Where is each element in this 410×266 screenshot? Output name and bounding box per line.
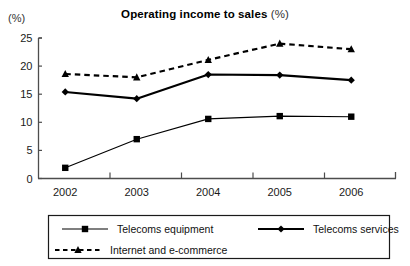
data-point-marker (277, 113, 283, 119)
series-1 (62, 113, 354, 171)
legend-item-label: Internet and e-commerce (110, 244, 227, 256)
x-axis-ticks (110, 173, 325, 179)
y-axis-tick-labels: 0510152025 (20, 32, 32, 185)
y-axis-tick-label: 0 (26, 173, 32, 185)
chart-container: (%) Operating income to sales (%) 051015… (0, 0, 410, 266)
legend-item-2[interactable]: Telecoms services (258, 223, 399, 235)
x-axis-tick-label: 2005 (268, 186, 292, 198)
y-axis-tick-label: 20 (20, 60, 32, 72)
series-line (65, 75, 351, 99)
legend-item-label: Telecoms equipment (117, 223, 213, 235)
legend-marker-sample (277, 225, 284, 232)
series-layer (62, 40, 355, 171)
data-point-marker (348, 113, 354, 119)
x-axis-tick-label: 2006 (339, 186, 363, 198)
legend-item-label: Telecoms services (313, 223, 399, 235)
x-axis-tick-label: 2002 (53, 186, 77, 198)
series-line (65, 116, 351, 168)
data-point-marker (348, 77, 355, 84)
plot-area: 0510152025 20022003200420052006 Telecoms… (0, 0, 410, 266)
data-point-marker (134, 136, 140, 142)
data-point-marker (62, 88, 69, 95)
legend-item-1[interactable]: Telecoms equipment (62, 223, 213, 235)
legend-item-3[interactable]: Internet and e-commerce (55, 244, 227, 256)
y-axis-tick-label: 25 (20, 32, 32, 44)
y-axis-tick-label: 5 (26, 144, 32, 156)
data-point-marker (133, 95, 140, 102)
data-point-marker (205, 71, 212, 78)
x-axis-tick-labels: 20022003200420052006 (53, 186, 363, 198)
x-axis-tick-label: 2004 (196, 186, 220, 198)
y-axis-tick-label: 15 (20, 88, 32, 100)
data-point-marker (62, 165, 68, 171)
data-point-marker (205, 116, 211, 122)
x-axis-tick-label: 2003 (125, 186, 149, 198)
y-axis-tick-label: 10 (20, 116, 32, 128)
data-point-marker (276, 71, 283, 78)
legend: Telecoms equipmentTelecoms servicesInter… (49, 216, 399, 259)
legend-marker-sample (82, 226, 88, 232)
